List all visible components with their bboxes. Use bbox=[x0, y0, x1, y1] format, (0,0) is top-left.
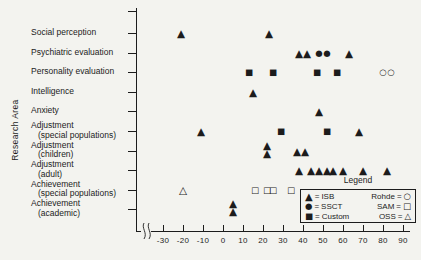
data-point-isb: ▲ bbox=[177, 28, 185, 39]
x-axis-tick bbox=[183, 225, 184, 231]
y-axis-tick bbox=[128, 151, 136, 152]
data-point-isb: ▲ bbox=[263, 147, 271, 158]
data-point-isb: ▲ bbox=[197, 126, 205, 137]
legend-item-ssct: ●=SSCT bbox=[305, 202, 342, 211]
legend-label: Custom bbox=[322, 212, 350, 221]
scatter-plot-figure: Research Area Legend ▲=ISB Rohde=○ ●=SSC… bbox=[0, 0, 421, 260]
data-point-isb: ▲ bbox=[265, 28, 273, 39]
category-label-line: Psychiatric evaluation bbox=[31, 48, 113, 58]
legend-label: SSCT bbox=[321, 202, 342, 211]
open-triangle-icon: △ bbox=[404, 212, 411, 221]
legend-item-sam: SAM=□ bbox=[377, 202, 411, 211]
category-label-line: (academic) bbox=[31, 209, 80, 219]
equals-sign: = bbox=[398, 212, 403, 221]
data-point-custom: ■ bbox=[323, 127, 331, 136]
legend-item-custom: ■=Custom bbox=[305, 212, 349, 221]
y-axis-title: Research Area bbox=[10, 99, 20, 160]
legend-row: ●=SSCT SAM=□ bbox=[305, 202, 411, 211]
data-point-rohde: ○ bbox=[387, 68, 394, 77]
legend-label: SAM bbox=[377, 202, 394, 211]
category-label: Psychiatric evaluation bbox=[31, 48, 113, 58]
category-label: Adjustment(children) bbox=[31, 141, 74, 160]
x-axis-tick bbox=[363, 225, 364, 231]
data-point-isb: ▲ bbox=[315, 165, 323, 176]
equals-sign: = bbox=[396, 202, 401, 211]
legend-row: ■=Custom OSS=△ bbox=[305, 212, 411, 221]
y-axis-tick bbox=[128, 33, 136, 34]
y-axis-tick bbox=[128, 111, 136, 112]
data-point-isb: ▲ bbox=[355, 126, 363, 137]
legend-title: Legend bbox=[300, 175, 416, 185]
y-axis-tick bbox=[128, 209, 136, 210]
category-label-line: Anxiety bbox=[31, 107, 59, 117]
equals-sign: = bbox=[314, 202, 319, 211]
x-axis-tick bbox=[323, 225, 324, 231]
data-point-ssct: ● bbox=[315, 48, 322, 57]
data-point-ssct: ● bbox=[323, 48, 330, 57]
category-label-line: Personality evaluation bbox=[31, 67, 114, 77]
category-label: Adjustment(special populations) bbox=[31, 121, 116, 140]
category-label: Anxiety bbox=[31, 107, 59, 117]
data-point-isb: ▲ bbox=[295, 47, 303, 58]
legend-box: ▲=ISB Rohde=○ ●=SSCT SAM=□ ■=Custom OSS=… bbox=[300, 189, 416, 223]
y-axis-tick bbox=[128, 11, 136, 12]
legend-label: ISB bbox=[321, 192, 334, 201]
data-point-isb: ▲ bbox=[315, 106, 323, 117]
legend-label: Rohde bbox=[371, 192, 395, 201]
category-label: Adjustment(adult) bbox=[31, 161, 74, 180]
data-point-custom: ■ bbox=[245, 68, 253, 77]
category-label: Achievement(academic) bbox=[31, 200, 80, 219]
data-point-custom: ■ bbox=[269, 68, 277, 77]
data-point-isb: ▲ bbox=[301, 145, 309, 156]
y-axis-tick bbox=[128, 131, 136, 132]
y-axis-tick bbox=[128, 53, 136, 54]
category-label: Intelligence bbox=[31, 87, 74, 97]
legend-item-oss: OSS=△ bbox=[379, 212, 411, 221]
data-point-custom: ■ bbox=[333, 68, 341, 77]
data-point-sam: □ bbox=[269, 185, 277, 194]
equals-sign: = bbox=[315, 192, 320, 201]
legend-item-isb: ▲=ISB bbox=[305, 192, 334, 202]
data-point-oss: △ bbox=[179, 184, 187, 195]
y-axis-tick bbox=[128, 72, 136, 73]
data-point-rohde: ○ bbox=[379, 68, 386, 77]
data-point-isb: ▲ bbox=[329, 165, 337, 176]
data-point-isb: ▲ bbox=[345, 47, 353, 58]
data-point-isb: ▲ bbox=[249, 86, 257, 97]
y-axis-tick bbox=[128, 190, 136, 191]
data-point-isb: ▲ bbox=[307, 165, 315, 176]
category-label-line: Social perception bbox=[31, 28, 96, 38]
data-point-isb: ▲ bbox=[339, 165, 347, 176]
data-point-isb: ▲ bbox=[295, 165, 303, 176]
legend-row: ▲=ISB Rohde=○ bbox=[305, 192, 411, 202]
x-axis-tick bbox=[283, 225, 284, 231]
equals-sign: = bbox=[315, 212, 320, 221]
data-point-isb: ▲ bbox=[293, 145, 301, 156]
filled-square-icon: ■ bbox=[305, 212, 313, 221]
filled-circle-icon: ● bbox=[305, 202, 312, 211]
x-axis-tick bbox=[223, 225, 224, 231]
data-point-custom: ■ bbox=[313, 68, 321, 77]
x-axis-tick bbox=[303, 225, 304, 231]
x-axis-tick bbox=[243, 225, 244, 231]
x-axis-tick bbox=[383, 225, 384, 231]
y-axis-line bbox=[136, 8, 137, 231]
data-point-custom: ■ bbox=[277, 127, 285, 136]
data-point-isb: ▲ bbox=[229, 206, 237, 217]
data-point-isb: ▲ bbox=[383, 165, 391, 176]
x-axis-tick bbox=[343, 225, 344, 231]
x-axis-line bbox=[136, 231, 410, 232]
category-label: Personality evaluation bbox=[31, 67, 114, 77]
legend-label: OSS bbox=[379, 212, 396, 221]
x-tick-label: 90 bbox=[390, 236, 416, 245]
open-square-icon: □ bbox=[403, 202, 411, 211]
category-label: Achievement(special populations) bbox=[31, 180, 116, 199]
open-circle-icon: ○ bbox=[404, 192, 411, 201]
data-point-sam: □ bbox=[251, 185, 259, 194]
category-label-line: Intelligence bbox=[31, 87, 74, 97]
legend-item-rohde: Rohde=○ bbox=[371, 192, 411, 201]
x-axis-tick bbox=[403, 225, 404, 231]
x-axis-tick bbox=[263, 225, 264, 231]
equals-sign: = bbox=[397, 192, 402, 201]
filled-triangle-icon: ▲ bbox=[305, 192, 313, 202]
